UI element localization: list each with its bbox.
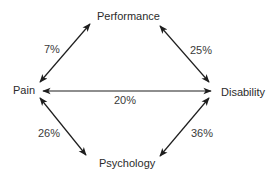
node-disability: Disability xyxy=(221,86,265,98)
edge-label-pain-performance: 7% xyxy=(44,43,60,55)
edge-label-pain-psychology: 26% xyxy=(38,127,60,139)
node-pain: Pain xyxy=(13,84,35,96)
edge-label-performance-disability: 25% xyxy=(190,44,212,56)
node-performance: Performance xyxy=(97,10,160,22)
node-psychology: Psychology xyxy=(99,157,155,169)
edge-label-pain-disability: 20% xyxy=(114,94,136,106)
edge-label-psychology-disability: 36% xyxy=(191,127,213,139)
